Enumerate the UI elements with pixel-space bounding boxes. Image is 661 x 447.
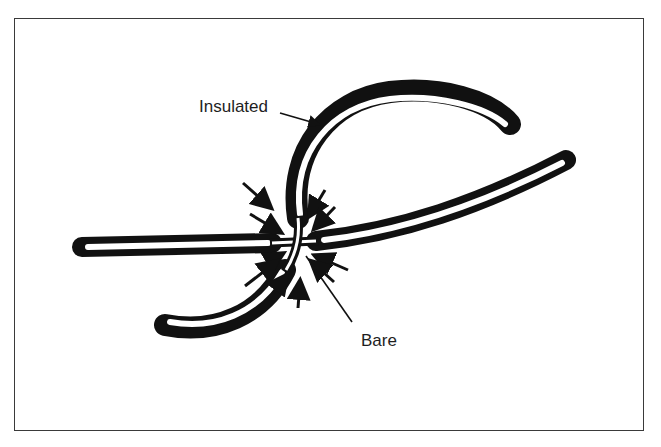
wire-curved-lower	[165, 270, 285, 328]
label-insulated: Insulated	[199, 97, 268, 117]
wire-horizontal-right	[316, 160, 566, 241]
label-bare: Bare	[361, 331, 397, 351]
bare-leader	[306, 256, 352, 322]
crossed-wires-illustration	[0, 0, 661, 447]
wire-horizontal-left	[82, 243, 272, 247]
insulated-leader	[280, 113, 318, 124]
